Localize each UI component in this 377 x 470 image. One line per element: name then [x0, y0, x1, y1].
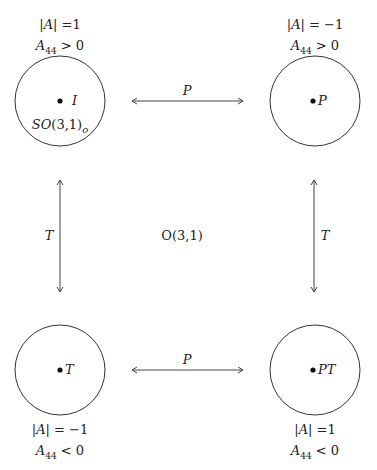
- point-label-identity: I: [72, 93, 77, 108]
- det-label-parity: |A| = −1: [287, 17, 343, 32]
- a44-label-parity-time: A44 < 0: [291, 443, 339, 461]
- arrow-label-bottom: P: [183, 352, 192, 367]
- det-label-identity: |A| =1: [39, 17, 80, 32]
- arrow-label-right: T: [321, 228, 330, 243]
- group-label-so31: SO(3,1)o: [32, 117, 88, 135]
- point-time: [57, 367, 62, 372]
- point-label-parity-time: PT: [318, 362, 335, 377]
- a44-label-parity: A44 > 0: [291, 38, 339, 56]
- det-label-parity-time: |A| =1: [294, 422, 335, 437]
- arrow-label-left: T: [45, 228, 54, 243]
- point-label-time: T: [65, 362, 74, 377]
- a44-label-identity: A44 > 0: [36, 38, 84, 56]
- a44-label-time: A44 < 0: [36, 443, 84, 461]
- point-parity-time: [310, 367, 315, 372]
- point-label-parity: P: [318, 93, 327, 108]
- point-parity: [310, 98, 315, 103]
- det-label-time: |A| = −1: [32, 422, 88, 437]
- point-identity: [57, 98, 62, 103]
- arrow-label-top: P: [183, 83, 192, 98]
- group-label-o31: O(3,1): [161, 228, 202, 243]
